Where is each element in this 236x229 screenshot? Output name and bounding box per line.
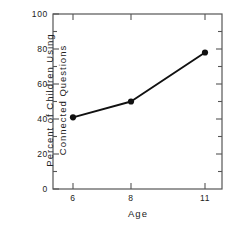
data-point-age-8 [128,98,134,104]
data-point-age-11 [202,49,208,55]
data-point-age-6 [70,114,76,120]
data-point-markers [70,49,208,120]
y-axis-title: Percent of Children Using Connected Ques… [43,0,69,200]
axes-border [53,14,222,189]
x-axis-title: Age [128,208,148,219]
y-right-ticks [216,32,222,172]
x-major-ticks [73,183,205,189]
xtick-label-8: 8 [128,194,133,203]
data-series-line [73,53,205,118]
xtick-label-6: 6 [70,194,75,203]
y-axis-title-line-2: Connected Questions [56,0,69,200]
x-top-ticks [73,14,205,20]
xtick-label-11: 11 [200,194,210,203]
chart-figure: 0 20 40 60 80 100 6 8 11 Age Percent of … [0,0,236,229]
plot-frame [53,14,222,189]
series-path [73,53,205,118]
y-axis-title-line-1: Percent of Children Using [43,0,56,200]
